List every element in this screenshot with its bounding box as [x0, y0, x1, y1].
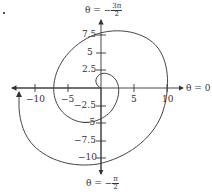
label-bottom-den: 2: [113, 184, 117, 191]
label-top-prefix: θ = −: [85, 5, 111, 15]
label-top-fraction: 3π2: [111, 3, 122, 18]
y-tick-label: 5: [87, 48, 93, 57]
label-bottom-prefix: θ = −: [86, 178, 112, 188]
label-theta-top: θ = −3π2: [85, 3, 122, 18]
y-tick-label: −10: [78, 153, 97, 162]
y-tick-label: −5: [82, 118, 95, 127]
y-tick-label: 7.5: [82, 30, 96, 39]
x-tick-label: −10: [26, 95, 45, 104]
x-tick-label: 5: [131, 95, 137, 104]
x-tick-label: 10: [162, 95, 173, 104]
label-theta-bottom: θ = −π2: [86, 176, 119, 191]
label-top-den: 2: [115, 11, 119, 18]
label-bottom-fraction: π2: [112, 176, 119, 191]
y-tick-label: 2.5: [82, 65, 96, 74]
y-tick-label: −2.5: [74, 101, 96, 110]
y-tick-label: −7.5: [74, 136, 96, 145]
label-theta-right: θ = 0: [186, 84, 210, 93]
x-tick-label: −5: [61, 95, 74, 104]
